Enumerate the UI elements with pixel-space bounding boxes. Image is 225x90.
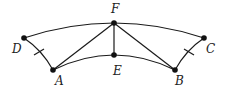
point-E xyxy=(111,52,117,58)
arc-C-B xyxy=(175,38,204,70)
point-A xyxy=(50,67,56,73)
label-E: E xyxy=(112,64,122,78)
point-D xyxy=(21,35,27,41)
point-C xyxy=(201,35,207,41)
segment-F-A xyxy=(53,23,114,70)
label-A: A xyxy=(54,74,64,88)
arc-D-A xyxy=(24,38,53,70)
label-D: D xyxy=(11,42,22,56)
label-B: B xyxy=(174,74,184,88)
segment-F-B xyxy=(114,23,175,70)
label-F: F xyxy=(110,2,120,16)
label-C: C xyxy=(206,42,215,56)
geometry-diagram: F E D A B C xyxy=(0,0,225,90)
point-F xyxy=(111,20,117,26)
point-B xyxy=(172,67,178,73)
